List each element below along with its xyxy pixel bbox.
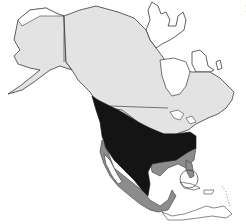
florida <box>186 160 194 178</box>
greenland-tip <box>216 60 222 70</box>
arctic-islands <box>146 2 186 48</box>
range-map <box>0 0 246 224</box>
cropped-text-fragment-1: I <box>245 3 246 14</box>
baffin-island <box>192 50 214 72</box>
south-america-coast <box>162 206 232 220</box>
alaska <box>8 8 72 94</box>
lesser-antilles <box>222 186 230 206</box>
north-america-map <box>0 0 246 224</box>
hispaniola <box>204 190 214 194</box>
